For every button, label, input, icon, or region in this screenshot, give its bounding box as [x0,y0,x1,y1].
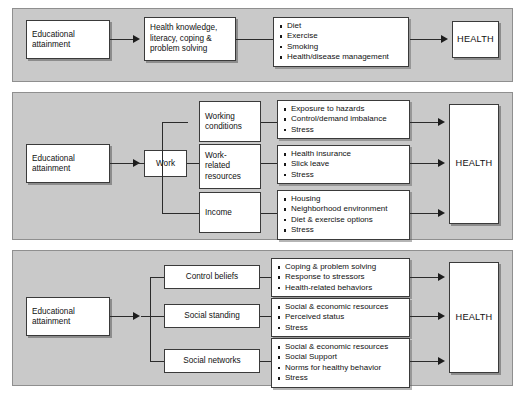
connector-line [136,163,145,164]
list-item: Stress [283,125,405,135]
connector-line [236,39,273,40]
outcome-list-panel-1-1: Health insurance Slick leave Stress [277,145,410,184]
connector-line [410,213,440,214]
connector-line [410,277,440,278]
arrow-head [438,273,445,281]
source-box-panel-0: Educational attainment [26,20,110,59]
list-item: Stress [277,373,405,383]
pathways-diagram: Educational attainment Health knowledge,… [0,0,525,394]
arrow-head [438,118,445,126]
outcome-list-panel-2-2: Social & economic resources Social Suppo… [271,338,410,388]
connector-line [410,122,440,123]
connector-line [150,316,165,317]
source-box-panel-1: Educational attainment [26,144,110,183]
list-item: Perceived status [277,312,405,322]
list-item: Social & economic resources [277,342,405,352]
connector-line [261,213,278,214]
list-item: Diet & exercise options [283,215,405,225]
list-item: Housing [283,194,405,204]
connector-line [410,163,440,164]
arrow-head [438,159,445,167]
outcome-list-panel-0-0: Diet Exercise Smoking Health/disease man… [273,17,409,67]
list-item: Health insurance [283,149,405,159]
connector-line [410,39,444,40]
list-item: Norms for healthy behavior [277,363,405,373]
connector-line [162,213,200,214]
list-item: Slick leave [283,159,405,169]
outcome-list-panel-2-1: Social & economic resources Perceived st… [271,298,410,337]
arrow-head [133,312,140,320]
source-box-panel-2: Educational attainment [26,297,110,336]
mediator-box-panel-0-0: Health knowledge, literacy, coping & pro… [144,17,236,61]
connector-line [110,163,135,164]
outcome-list-panel-1-0: Exposure to hazards Control/demand imbal… [277,100,410,139]
hub-box-work: Work [144,150,187,177]
outcome-box-panel-1: HEALTH [449,104,499,224]
list-item: Exercise [279,31,404,41]
outcome-list-panel-2-0: Coping & problem solving Response to str… [271,258,410,297]
outcome-list-panel-1-2: Housing Neighborhood environment Diet & … [277,190,410,240]
list-item: Health/disease management [279,52,404,62]
outcome-box-panel-2: HEALTH [449,262,499,373]
connector-line [150,277,165,278]
arrow-head [438,312,445,320]
connector-line [150,361,165,362]
mediator-box-panel-2-0: Control beliefs [164,265,260,289]
arrow-head [441,35,448,43]
mediator-box-panel-1-2: Income [199,192,261,233]
list-item: Smoking [279,42,404,52]
arrow-head [438,357,445,365]
list-item: Neighborhood environment [283,204,405,214]
mediator-box-panel-2-2: Social networks [164,349,260,373]
connector-line [110,316,135,317]
list-item: Social & economic resources [277,302,405,312]
connector-line [261,163,278,164]
outcome-box-panel-0: HEALTH [452,21,499,58]
connector-line [162,122,163,163]
list-item: Stress [277,323,405,333]
list-item: Health-related behaviors [277,283,405,293]
connector-line [261,122,278,123]
connector-line [150,316,151,361]
connector-line [187,163,199,164]
connector-line [410,361,440,362]
list-item: Stress [283,170,405,180]
list-item: Control/demand imbalance [283,114,405,124]
mediator-box-panel-2-1: Social standing [164,304,260,328]
list-item: Diet [279,21,404,31]
connector-line [150,277,151,316]
connector-line [110,39,135,40]
connector-line [162,122,188,123]
list-item: Stress [283,225,405,235]
connector-line [410,316,440,317]
list-item: Response to stressors [277,272,405,282]
arrow-head [133,35,140,43]
list-item: Coping & problem solving [277,262,405,272]
list-item: Social Support [277,352,405,362]
connector-line [162,163,163,213]
mediator-box-panel-1-0: Working conditions [199,101,261,142]
arrow-head [438,209,445,217]
list-item: Exposure to hazards [283,104,405,114]
mediator-box-panel-1-1: Work- related resources [199,144,261,189]
